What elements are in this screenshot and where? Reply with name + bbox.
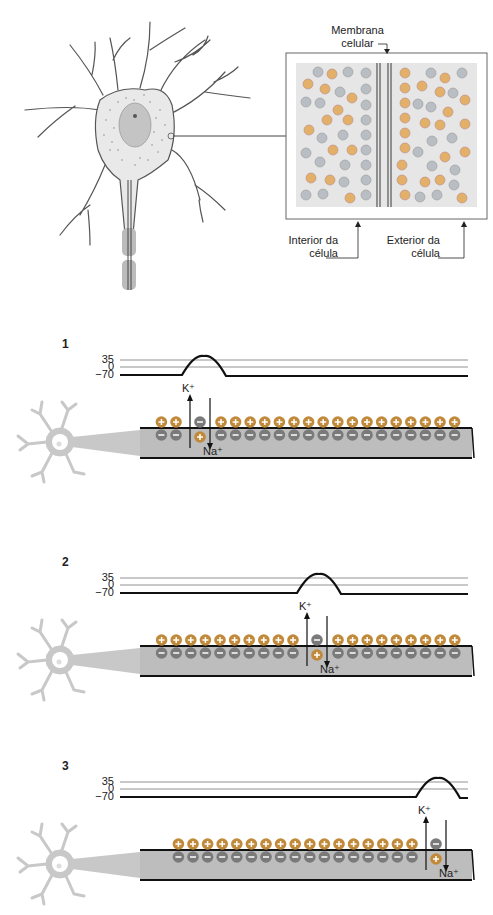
sodium-label: Na⁺ (439, 867, 459, 880)
panel-3-graphic (0, 0, 493, 915)
panel-3-tick-2: −70 (86, 790, 114, 802)
potassium-label: K⁺ (418, 804, 431, 817)
panel-3-number: 3 (62, 759, 69, 773)
action-potential-trace (120, 778, 468, 798)
